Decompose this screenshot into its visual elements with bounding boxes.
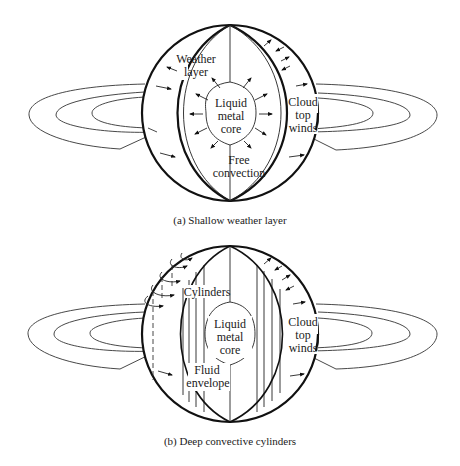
rings-right-b <box>300 304 437 369</box>
label-weather-layer: Weather <box>176 52 216 66</box>
label-cloud-top-winds-2: top <box>295 108 310 122</box>
label-core-3: core <box>221 122 242 136</box>
label-core-b-3: core <box>220 343 241 357</box>
label-free-convection-1: Free <box>228 153 249 167</box>
caption-b: (b) Deep convective cylinders <box>164 435 296 448</box>
label-core-2: metal <box>218 109 245 123</box>
label-core-1: Liquid <box>215 96 247 110</box>
panel-b: Cylinders Liquid metal core Fluid envelo… <box>28 246 437 448</box>
caption-a: (a) Shallow weather layer <box>173 214 287 227</box>
label-cloud-top-winds-b-2: top <box>295 328 310 342</box>
label-cylinders: Cylinders <box>184 285 231 299</box>
label-cloud-top-winds-1: Cloud <box>288 95 317 109</box>
panel-a: Weather layer Liquid metal core Free con… <box>29 25 437 227</box>
saturn-interior-diagram: Weather layer Liquid metal core Free con… <box>0 0 460 466</box>
label-free-convection-2: convection <box>213 166 266 180</box>
label-cloud-top-winds-3: winds <box>289 121 318 135</box>
label-core-b-1: Liquid <box>214 317 246 331</box>
label-fluid-envelope-2: envelope <box>186 376 229 390</box>
label-cloud-top-winds-b-3: winds <box>289 341 318 355</box>
label-core-b-2: metal <box>217 330 244 344</box>
rings-left <box>29 84 157 149</box>
label-cloud-top-winds-b-1: Cloud <box>288 315 317 329</box>
rings-left-b <box>28 304 157 369</box>
rings-right <box>300 84 437 150</box>
label-fluid-envelope-1: Fluid <box>194 363 219 377</box>
label-weather-layer-2: layer <box>184 65 208 79</box>
